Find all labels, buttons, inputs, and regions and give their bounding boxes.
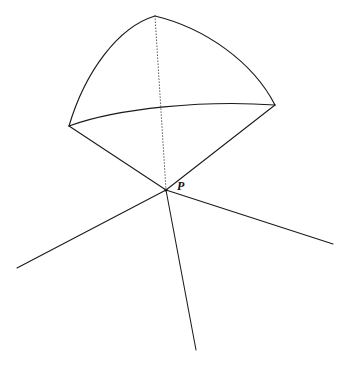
arc-left-to-right-vertex [69,104,275,126]
edge-left-vertex-to-p [69,126,166,190]
point-p-label: P [177,180,184,192]
point-p-marker [164,188,167,191]
arc-apex-to-right-vertex [155,16,275,105]
geometry-figure: P [0,0,350,369]
edge-right-vertex-to-p [166,105,275,190]
dotted-axis-apex-to-p [155,16,166,190]
ray-p-to-lower-left [17,190,166,268]
ray-p-to-lower-right [166,190,333,244]
diagram-canvas [0,0,350,369]
ray-p-downward [166,190,196,350]
